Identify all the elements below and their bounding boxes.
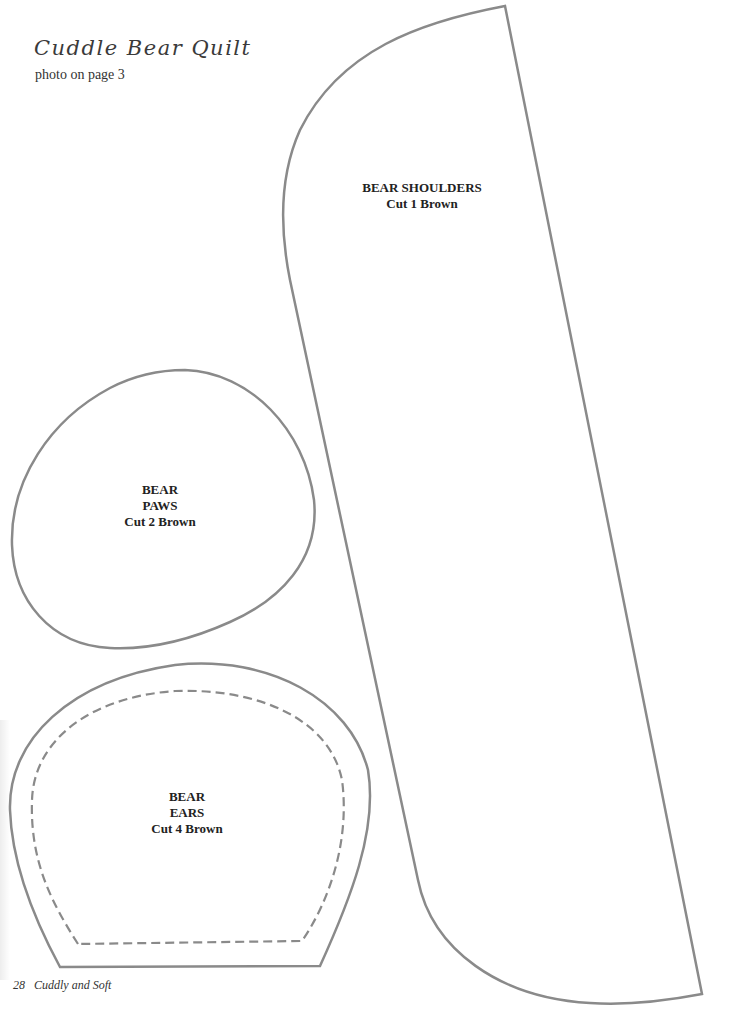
bear-ears-name-2: EARS <box>151 805 222 821</box>
bear-paws-cut: Cut 2 Brown <box>124 514 195 530</box>
bear-ears-name-1: BEAR <box>151 789 222 805</box>
pattern-pieces <box>0 0 749 1017</box>
bear-ears-cut: Cut 4 Brown <box>151 821 222 837</box>
bear-shoulders-outline <box>283 6 702 1004</box>
bear-ears-label: BEAR EARS Cut 4 Brown <box>151 789 222 837</box>
bear-shoulders-label: BEAR SHOULDERS Cut 1 Brown <box>362 180 482 212</box>
page-number: 28 <box>13 978 25 992</box>
page-footer: 28 Cuddly and Soft <box>13 978 111 993</box>
bear-shoulders-name: BEAR SHOULDERS <box>362 180 482 196</box>
bear-paws-label: BEAR PAWS Cut 2 Brown <box>124 482 195 530</box>
bear-shoulders-cut: Cut 1 Brown <box>362 196 482 212</box>
bear-paws-name-2: PAWS <box>124 498 195 514</box>
book-title: Cuddly and Soft <box>34 978 111 992</box>
bear-paws-name-1: BEAR <box>124 482 195 498</box>
